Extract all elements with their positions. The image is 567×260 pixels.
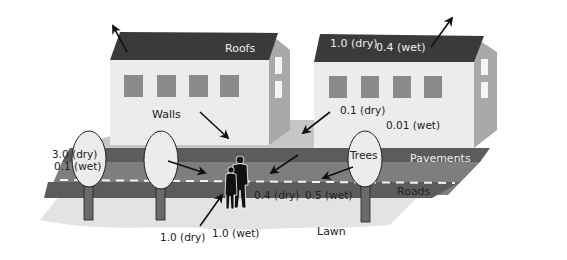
label-trees-dry: 3.0 (dry) (52, 148, 97, 160)
label-roofs: Roofs (225, 42, 255, 55)
label-lawn-dry: 1.0 (dry) (160, 231, 205, 243)
label-trees-wet: 0.1 (wet) (54, 160, 101, 172)
label-roofs-wet: 0.4 (wet) (376, 41, 426, 54)
label-lawn: Lawn (317, 225, 346, 238)
label-roads: Roads (397, 185, 431, 198)
label-walls: Walls (152, 108, 181, 121)
label-lawn-wet: 1.0 (wet) (212, 227, 259, 239)
house-left (110, 32, 290, 145)
label-roofs-dry: 1.0 (dry) (330, 37, 378, 50)
label-walls-wet: 0.01 (wet) (386, 119, 440, 131)
label-walls-dry: 0.1 (dry) (340, 104, 385, 116)
label-trees: Trees (349, 149, 377, 161)
label-roads-wet: 0.5 (wet) (305, 189, 352, 201)
urban-surface-diagram: Roofs 1.0 (dry) 0.4 (wet) Walls 0.1 (dry… (0, 0, 567, 260)
label-pavements: Pavements (410, 152, 471, 165)
label-roads-dry: 0.4 (dry) (254, 189, 299, 201)
